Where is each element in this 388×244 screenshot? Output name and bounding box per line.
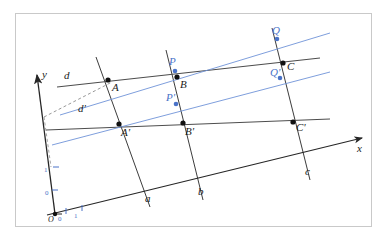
label-c: c: [305, 165, 310, 177]
blue-line-PQ: [60, 33, 330, 115]
label-d-prime: d': [78, 102, 87, 114]
transversal-c: [272, 28, 310, 180]
point-C-prime: [290, 119, 295, 124]
geometry-figure: x y O 0 1 0 1 d d' A B C A' B' C' P P' Q…: [0, 0, 388, 244]
label-b: b: [198, 185, 204, 197]
label-C: C: [287, 60, 295, 72]
x-tick-0-label: 0: [58, 215, 62, 223]
label-a: a: [145, 192, 151, 204]
label-Q-prime: Q': [270, 66, 281, 78]
origin-label: O: [48, 215, 54, 224]
diagram-canvas: x y O 0 1 0 1 d d' A B C A' B' C' P P' Q…: [0, 0, 388, 244]
label-Q: Q: [272, 24, 280, 36]
point-Q: [275, 37, 280, 42]
label-B: B: [180, 78, 187, 90]
x-axis-label: x: [356, 142, 362, 154]
point-P: [173, 69, 178, 74]
label-B-prime: B': [185, 125, 195, 137]
y-tick-0-label: 0: [45, 189, 49, 197]
label-A: A: [111, 81, 119, 93]
x-axis: [47, 138, 362, 215]
label-P-prime: P': [165, 91, 176, 103]
label-A-prime: A': [120, 126, 131, 138]
point-B: [174, 74, 179, 79]
y-axis-label: y: [41, 68, 47, 80]
point-A: [105, 77, 110, 82]
point-C: [280, 60, 285, 65]
label-C-prime: C': [296, 121, 306, 133]
x-tick-1-label: 1: [74, 212, 78, 220]
y-tick-1-label: 1: [44, 166, 48, 174]
label-d: d: [64, 69, 70, 81]
label-P: P: [168, 55, 176, 67]
